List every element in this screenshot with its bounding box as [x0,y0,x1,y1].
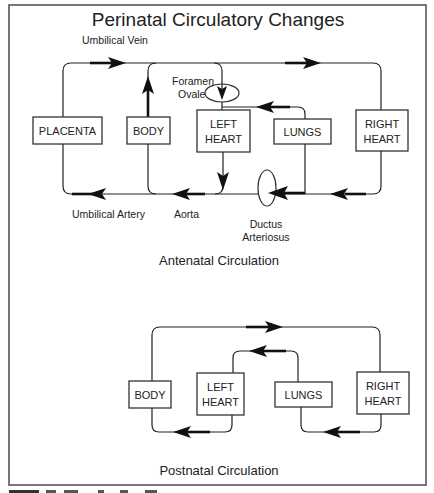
aorta-label: Aorta [174,208,199,220]
postnatal-right-heart-label-2: HEART [364,395,401,407]
postnatal-diagram: BODY LEFT HEART LUNGS RIGHT HEART Postna… [129,321,409,478]
aorta-path [215,152,223,194]
systemic-top-path [152,327,380,381]
left-heart-box [197,110,250,152]
figure-title: Perinatal Circulatory Changes [92,9,344,30]
postnatal-left-heart-label-1: LEFT [207,381,234,393]
postnatal-right-heart-box [357,372,409,414]
antenatal-section-label: Antenatal Circulation [159,253,279,268]
placenta-label: PLACENTA [39,125,97,137]
foramen-ovale-label-2: Ovale [178,88,206,100]
right-heart-label-2: HEART [363,133,400,145]
postnatal-body-label: BODY [134,389,166,401]
circulation-diagram: Perinatal Circulatory Changes Umbilical … [0,0,434,493]
ductus-label-2: Arteriosus [242,231,289,243]
postnatal-right-heart-label-1: RIGHT [366,380,401,392]
postnatal-left-heart-box [197,373,244,415]
umbilical-artery-label: Umbilical Artery [72,208,146,220]
ductus-label-1: Ductus [250,218,283,230]
umbilical-vein-label: Umbilical Vein [82,34,148,46]
postnatal-left-heart-label-2: HEART [202,396,239,408]
ductus-arteriosus-ellipse [258,170,276,206]
left-heart-label-1: LEFT [210,118,237,130]
left-heart-label-2: HEART [205,133,242,145]
body-return-path [148,144,156,194]
lungs-label: LUNGS [284,126,322,138]
foramen-ovale-label-1: Foramen [172,75,214,87]
right-heart-label-1: RIGHT [365,118,400,130]
postnatal-lungs-label: LUNGS [285,389,323,401]
antenatal-diagram: Umbilical Vein Foramen Ovale PLACENTA BO… [33,34,408,268]
body-label: BODY [133,125,165,137]
postnatal-section-label: Postnatal Circulation [159,463,278,478]
